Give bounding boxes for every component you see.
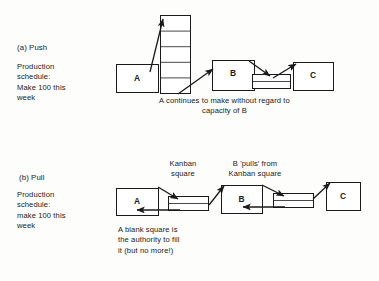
pull-kanban-square-b [274,194,314,208]
push-section-label: (a) Push [17,43,47,52]
push-production-schedule-text: Production schedule: Make 100 this week [17,62,112,104]
push-tall-wip-stack [161,16,191,94]
pull-box-a-label: A [116,196,158,206]
push-box-b-label: B [212,68,254,78]
push-box-a-label: A [116,73,158,83]
pull-box-c-label: C [326,191,360,201]
push-short-wip-stack [253,75,291,89]
b-pulls-from-kanban-label: B 'pulls' from Kanban square [212,159,298,180]
figure-push-pull-diagram: (a) Push Production schedule: Make 100 t… [0,0,379,281]
pull-kanban-square-a [169,197,209,211]
push-caption: A continues to make without regard to ca… [112,96,337,117]
pull-box-b-label: B [221,194,262,204]
push-box-c-label: C [293,70,333,80]
pull-section-label: (b) Pull [19,173,45,182]
kanban-square-label: Kanban square [157,159,209,180]
pull-production-schedule-text: Production schedule: make 100 this week [17,190,112,232]
pull-caption: A blank square is the authority to fill … [118,225,228,256]
